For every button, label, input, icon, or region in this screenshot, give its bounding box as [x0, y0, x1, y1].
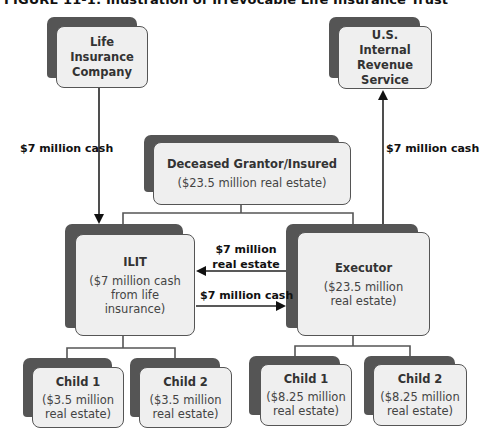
- node-name: Child 1: [56, 375, 101, 390]
- edge-label-line-2: real estate: [207, 257, 285, 272]
- box: Child 2 ($8.25 million real estate): [373, 364, 467, 426]
- node-name: Deceased Grantor/Insured: [167, 157, 337, 172]
- edge-label-executor-to-ilit: $7 million real estate: [207, 242, 285, 272]
- tree-deceased: [123, 205, 353, 224]
- box: Executor ($23.5 million real estate): [297, 232, 430, 336]
- box: U.S. Internal Revenue Service: [338, 26, 432, 89]
- box: Life Insurance Company: [56, 26, 148, 88]
- box: Child 2 ($3.5 million real estate): [139, 367, 232, 428]
- node-name: Executor: [335, 261, 392, 276]
- box: ILIT ($7 million cash from life insuranc…: [75, 234, 195, 336]
- edge-label-line-1: $7 million: [207, 242, 285, 257]
- node-detail: ($8.25 million real estate): [261, 390, 351, 418]
- edge-label-ilit-to-executor: $7 million cash: [200, 288, 282, 303]
- node-detail: ($8.25 million real estate): [374, 390, 466, 418]
- box: Child 1 ($3.5 million real estate): [32, 367, 124, 428]
- tree-executor-children: [295, 336, 410, 356]
- node-name: ILIT: [123, 255, 147, 270]
- node-name: Child 2: [163, 375, 208, 390]
- edge-label-executor-to-irs: $7 million cash: [386, 141, 479, 156]
- node-detail: ($23.5 million real estate): [177, 176, 326, 190]
- node-name: U.S. Internal Revenue Service: [339, 28, 431, 88]
- node-detail: ($23.5 million real estate): [298, 280, 429, 308]
- node-name: Child 1: [284, 372, 329, 387]
- node-detail: ($3.5 million real estate): [140, 393, 231, 421]
- node-detail: ($3.5 million real estate): [33, 393, 123, 421]
- box: Deceased Grantor/Insured ($23.5 million …: [153, 142, 351, 205]
- box: Child 1 ($8.25 million real estate): [260, 364, 352, 426]
- node-detail: ($7 million cash from life insurance): [76, 274, 194, 316]
- edge-label-insurer-to-ilit: $7 million cash: [20, 141, 113, 156]
- node-name: Life Insurance Company: [57, 35, 147, 80]
- node-name: Child 2: [398, 372, 443, 387]
- tree-ilit-children: [67, 336, 175, 358]
